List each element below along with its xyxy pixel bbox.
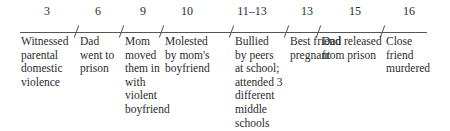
event-age: 11–13 bbox=[232, 4, 272, 18]
event-age: 13 bbox=[287, 4, 327, 18]
event-label: Dad went to prison bbox=[80, 35, 114, 76]
event-age: 10 bbox=[167, 4, 207, 18]
event-age: 15 bbox=[335, 4, 375, 18]
event-age: 3 bbox=[27, 4, 67, 18]
timeline-axis-line bbox=[20, 32, 427, 33]
event-age: 6 bbox=[78, 4, 118, 18]
event-label: Witnessed parental domestic violence bbox=[21, 35, 68, 89]
event-label: Mom moved them in with violent boyfriend bbox=[125, 35, 170, 117]
event-label: Bullied by peers at school; attended 3 d… bbox=[235, 35, 283, 130]
event-label: Molested by mom's boyfriend bbox=[165, 35, 210, 76]
event-label: Close friend murdered bbox=[386, 35, 430, 76]
event-age: 9 bbox=[123, 4, 163, 18]
event-age: 16 bbox=[389, 4, 429, 18]
life-events-timeline: 3 6 9 10 11–13 13 15 16 Witnessed parent… bbox=[0, 0, 450, 131]
event-label: Dad released from prison bbox=[322, 35, 382, 62]
